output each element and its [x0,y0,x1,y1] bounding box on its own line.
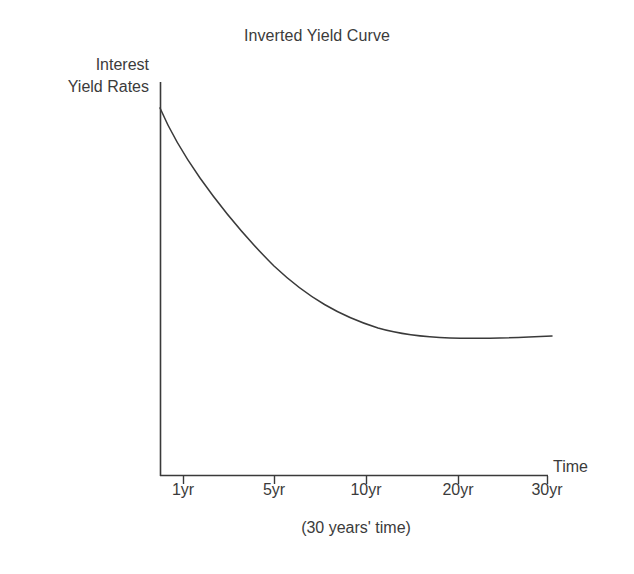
x-tick-label-1yr: 1yr [172,481,194,499]
x-tick-label-30yr: 30yr [531,481,562,499]
x-axis-label: Time [553,458,588,476]
x-axis-caption: (30 years' time) [160,519,552,537]
x-tick-label-20yr: 20yr [442,481,473,499]
x-tick-label-10yr: 10yr [350,481,381,499]
yield-curve-line [160,108,552,338]
chart-figure: Inverted Yield Curve Interest Yield Rate… [0,0,634,574]
x-tick-label-5yr: 5yr [263,481,285,499]
